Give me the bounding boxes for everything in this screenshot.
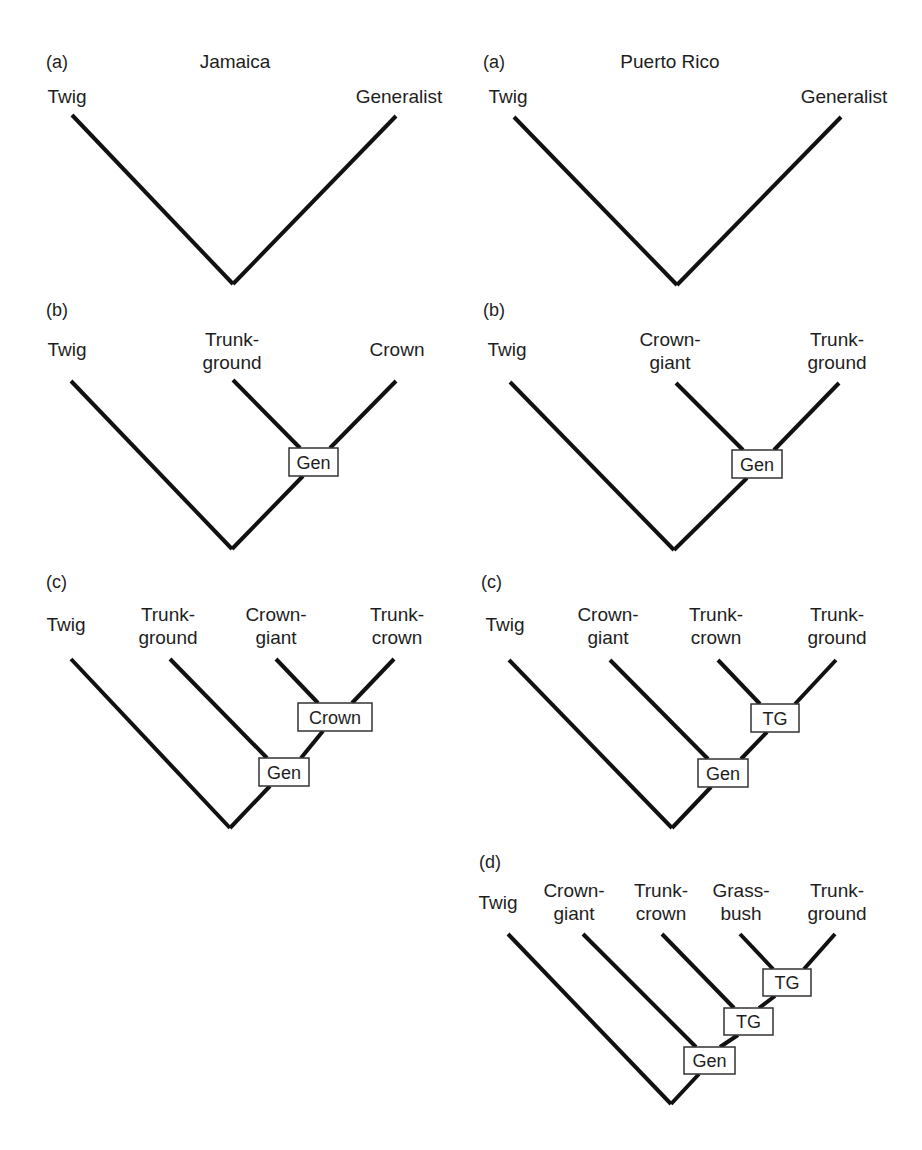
tip-label-line: Crown-: [639, 329, 700, 350]
tip-label: Trunk-crown: [370, 604, 424, 648]
branch-line: [230, 786, 270, 828]
tip-label: Twig: [485, 614, 524, 635]
tip-label-line: Crown-: [577, 604, 638, 625]
tip-label: Twig: [487, 339, 526, 360]
branch-line: [509, 660, 672, 828]
tip-label: Twig: [478, 892, 517, 913]
node-box-label: TG: [736, 1012, 761, 1032]
branch-line: [510, 382, 674, 550]
node-box-gen: Gen: [698, 759, 748, 787]
panel-label: (a): [483, 52, 505, 72]
tip-label-line: Generalist: [801, 86, 888, 107]
tip-label-line: giant: [255, 627, 297, 648]
node-box-gen: Gen: [259, 758, 309, 786]
trees-layer: (a)TwigGeneralist(a)TwigGeneralist(b)Twi…: [46, 52, 888, 1104]
tip-label: Twig: [488, 86, 527, 107]
column-title-puerto-rico: Puerto Rico: [620, 51, 719, 72]
tip-label: Crown-giant: [639, 329, 700, 373]
node-box-tg: TG: [751, 704, 799, 732]
tip-label: Crown-giant: [577, 604, 638, 648]
tip-label: Trunk-crown: [689, 604, 743, 648]
branch-line: [759, 996, 775, 1008]
tip-label: Trunk-ground: [807, 880, 866, 924]
tip-label-line: crown: [636, 903, 687, 924]
tip-label-line: Crown-: [543, 880, 604, 901]
tree-puerto-rico-c: (c)TwigCrown-giantTrunk-crownTrunk-groun…: [481, 572, 867, 828]
branch-line: [276, 659, 318, 703]
tip-label-line: crown: [372, 627, 423, 648]
branch-line: [674, 478, 747, 550]
tip-label-line: giant: [553, 903, 595, 924]
tip-label-line: giant: [587, 627, 629, 648]
node-box-tg: TG: [724, 1008, 773, 1035]
panel-label: (b): [46, 300, 68, 320]
branch-line: [610, 660, 708, 759]
panel-label: (d): [479, 852, 501, 872]
tip-label-line: ground: [807, 903, 866, 924]
tip-label-line: Crown-: [245, 604, 306, 625]
branch-line: [672, 787, 711, 828]
tip-label-line: Grass-: [713, 880, 770, 901]
tip-label: Generalist: [801, 86, 888, 107]
branch-line: [720, 1035, 738, 1047]
tip-label: Crown-giant: [543, 880, 604, 924]
tree-puerto-rico-b: (b)TwigCrown-giantTrunk-groundGen: [483, 300, 867, 550]
tree-jamaica-a: (a)TwigGeneralist: [46, 52, 443, 284]
tip-label-line: ground: [138, 627, 197, 648]
tree-jamaica-c: (c)TwigTrunk-groundCrown-giantTrunk-crow…: [46, 572, 424, 828]
branch-line: [718, 660, 760, 704]
tip-label: Trunk-ground: [202, 329, 261, 373]
tip-label-line: Generalist: [356, 86, 443, 107]
tip-label-line: Trunk-: [810, 880, 864, 901]
branch-line: [514, 117, 677, 285]
node-box-label: Gen: [267, 763, 301, 783]
branch-line: [508, 934, 671, 1104]
tip-label: Grass-bush: [713, 880, 770, 924]
tip-label-line: Twig: [488, 86, 527, 107]
node-box-crown: Crown: [298, 703, 372, 731]
branch-line: [301, 731, 323, 758]
branch-line: [676, 383, 743, 450]
branch-line: [740, 934, 773, 969]
branch-line: [71, 381, 232, 549]
branch-line: [795, 660, 836, 704]
branch-line: [170, 659, 267, 758]
phylogeny-figure: Jamaica Puerto Rico (a)TwigGeneralist(a)…: [0, 0, 922, 1150]
tip-label: Trunk-crown: [634, 880, 688, 924]
tip-label-line: Twig: [485, 614, 524, 635]
node-box-gen: Gen: [289, 448, 338, 476]
panel-label: (c): [46, 572, 67, 592]
tip-label-line: Twig: [478, 892, 517, 913]
tip-label: Twig: [46, 614, 85, 635]
node-box-label: TG: [775, 973, 800, 993]
panel-label: (b): [483, 300, 505, 320]
tip-label-line: ground: [807, 627, 866, 648]
tip-label-line: bush: [720, 903, 761, 924]
node-box-tg: TG: [763, 969, 811, 996]
tip-label: Twig: [47, 339, 86, 360]
tree-puerto-rico-d: (d)TwigCrown-giantTrunk-crownGrass-bushT…: [478, 852, 866, 1104]
tip-label-line: Twig: [47, 339, 86, 360]
node-box-label: Gen: [706, 764, 740, 784]
tip-label: Trunk-ground: [138, 604, 197, 648]
branch-line: [330, 381, 396, 448]
tip-label-line: Trunk-: [141, 604, 195, 625]
branch-line: [233, 116, 396, 284]
tip-label-line: Twig: [47, 86, 86, 107]
branch-line: [741, 732, 767, 759]
branch-line: [677, 117, 841, 285]
tip-label: Crown: [370, 339, 425, 360]
tip-label-line: ground: [202, 352, 261, 373]
tip-label-line: Twig: [46, 614, 85, 635]
column-title-jamaica: Jamaica: [200, 51, 271, 72]
tip-label: Generalist: [356, 86, 443, 107]
node-box-gen: Gen: [684, 1047, 735, 1074]
node-box-gen: Gen: [732, 450, 782, 478]
column-titles: Jamaica Puerto Rico: [200, 51, 720, 72]
branch-line: [232, 476, 303, 549]
branch-line: [352, 659, 394, 703]
tip-label-line: ground: [807, 352, 866, 373]
tip-label-line: crown: [691, 627, 742, 648]
tip-label: Twig: [47, 86, 86, 107]
tip-label-line: Crown: [370, 339, 425, 360]
